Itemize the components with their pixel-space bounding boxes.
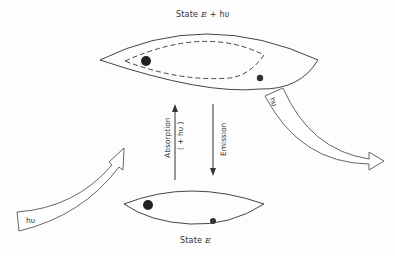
- energy-symbol: E: [201, 10, 207, 19]
- nucleus-bottom: [143, 200, 153, 210]
- energy-state-diagram: State E + hυ Absorption ( + hυ ) Emissio…: [0, 0, 395, 256]
- emission-label: Emission: [219, 123, 228, 156]
- electron-top: [257, 75, 263, 81]
- state-word: State: [180, 236, 202, 245]
- nucleus-top: [141, 56, 151, 66]
- absorption-arrowhead: [172, 104, 178, 112]
- energy-symbol: E: [205, 236, 211, 245]
- electron-bottom: [210, 218, 216, 224]
- emission-arrowhead: [210, 168, 216, 176]
- ground-state-label: State E: [180, 236, 211, 245]
- state-word: State: [176, 10, 198, 19]
- outgoing-photon-arrow: [265, 88, 384, 170]
- excited-orbit: [100, 34, 318, 90]
- incoming-photon-label: hυ: [26, 216, 35, 225]
- absorption-label: Absorption: [163, 117, 172, 158]
- excited-state-label: State E + hυ: [176, 10, 229, 19]
- photon-energy-term: + hυ: [210, 10, 230, 19]
- absorption-sub-label: ( + hυ ): [176, 122, 185, 150]
- diagram-graphics: [0, 0, 395, 256]
